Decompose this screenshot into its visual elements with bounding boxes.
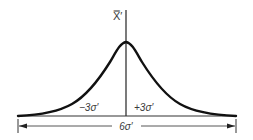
- bell-curve: [18, 42, 236, 116]
- right-arrowhead-icon: [227, 124, 235, 129]
- plus-3-sigma-label: +3σ′: [134, 102, 154, 113]
- six-sigma-label: 6σ′: [119, 121, 134, 132]
- left-arrowhead-icon: [19, 124, 27, 129]
- minus-3-sigma-label: −3σ′: [79, 102, 99, 113]
- axis-label: X̿′: [113, 10, 123, 22]
- normal-curve-diagram: X̿′ −3σ′ +3σ′ 6σ′: [0, 0, 253, 140]
